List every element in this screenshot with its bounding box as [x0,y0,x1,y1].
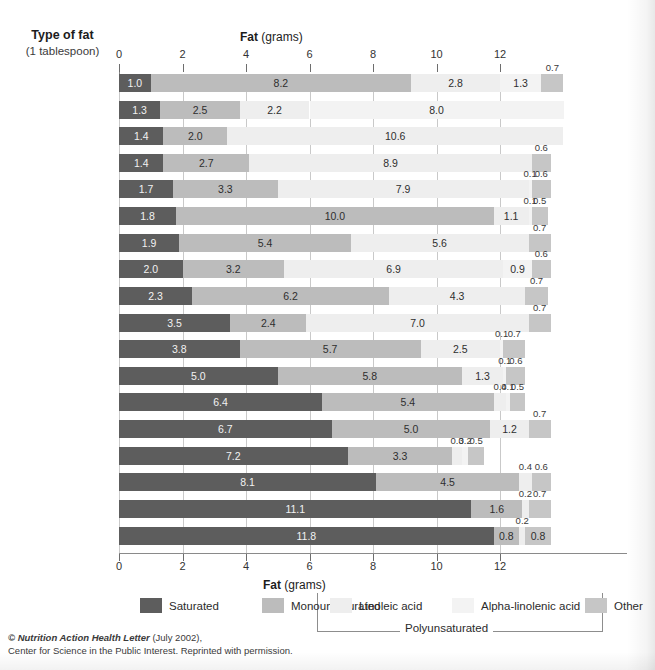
x-tick-label-top: 4 [243,48,249,60]
bar-value-label: 10.0 [176,207,494,225]
bar-segment-other [529,420,551,438]
bar-value-label: 2.4 [230,314,306,332]
bar-value-label: 3.2 [183,260,285,278]
x-axis-title-top-bold: Fat [240,30,258,44]
bar-segment-other [468,447,484,465]
bar-row: Olive oil1.810.01.10.10.5 [0,207,655,225]
bar-value-label: 4.3 [389,287,526,305]
bar-value-label: 1.2 [490,420,528,438]
bar-value-label: 0.6 [530,247,553,260]
bar-segment-other [541,74,563,92]
bar-segment-other [510,393,526,411]
y-axis-title-main: Type of fat [10,28,115,44]
bar-value-label: 6.7 [119,420,332,438]
bar-value-label: 0.8 [525,527,550,545]
bar-value-label: 2.0 [163,127,227,145]
x-axis-title-bottom: Fat (grams) [263,578,326,592]
x-axis-title-top: Fat (grams) [240,30,303,44]
credit-publication: © Nutrition Action Health Letter [8,632,150,643]
fat-composition-chart: Type of fat (1 tablespoon) Fat (grams) F… [0,0,655,670]
bar-row: Corn oil1.73.37.90.10.6 [0,180,655,198]
bar-value-label: 1.0 [119,74,151,92]
bar-value-label: 6.2 [192,287,389,305]
bar-row: Peanut oil2.36.24.30.7 [0,287,655,305]
x-tick-label-top: 8 [370,48,376,60]
bar-row: Palm kernel oil11.11.60.20.7 [0,500,655,518]
bar-row: Palm oil6.75.01.20.7 [0,420,655,438]
bar-value-label: 2.5 [421,340,500,358]
x-tick-label-top: 12 [494,48,506,60]
bar-value-label: 2.2 [240,101,310,119]
bar-value-label: 0.6 [530,141,553,154]
bar-row: Butter7.23.30.30.20.5 [0,447,655,465]
x-tick-label-bottom: 2 [179,560,185,572]
bar-row: Flaxseed oil1.32.52.28.0 [0,101,655,119]
bar-value-label: 0.8 [494,527,519,545]
x-tick-label-bottom: 10 [430,560,442,572]
bar-row: Safflower oil1.42.010.6 [0,127,655,145]
bar-value-label: 8.0 [310,101,564,119]
x-tick-label-bottom: 8 [370,560,376,572]
bar-value-label: 5.4 [179,234,350,252]
legend-label: Linoleic acid [359,600,422,612]
paper-bottom-shadow [0,652,655,670]
credit-line-1: © Nutrition Action Health Letter (July 2… [8,632,293,645]
bar-value-label: 0.7 [528,407,551,420]
legend-swatch-icon [585,598,607,613]
bar-row: Lard (pork fat)5.05.81.30.10.6 [0,367,655,385]
x-tick-top [373,64,374,72]
x-tick-top [246,64,247,72]
bar-value-label: 1.1 [494,207,529,225]
x-axis-title-bottom-bold: Fat [263,578,281,592]
bar-row: Canola oil1.08.22.81.30.7 [0,74,655,92]
bar-row: Soybean oil2.03.26.90.90.6 [0,260,655,278]
bar-value-label: 0.7 [541,61,564,74]
bar-value-label: 5.0 [119,367,278,385]
legend-label: Alpha-linolenic acid [481,600,580,612]
y-axis-title: Type of fat (1 tablespoon) [10,28,115,58]
bar-row: Cocoa butter8.14.50.40.6 [0,473,655,491]
legend-item-linoleic-acid[interactable]: Linoleic acid [330,598,422,613]
x-tick-top [119,64,120,72]
x-axis-title-top-rest: (grams) [258,30,303,44]
bar-value-label: 0.6 [505,354,528,367]
bar-value-label: 5.7 [240,340,421,358]
bar-value-label: 2.7 [163,154,249,172]
bar-value-label: 1.4 [119,127,163,145]
bar-value-label: 1.9 [119,234,179,252]
legend-swatch-icon [140,598,162,613]
bar-value-label: 1.3 [119,101,160,119]
bar-value-label: 0.2 [511,514,534,527]
x-tick-label-bottom: 4 [243,560,249,572]
bar-value-label: 7.9 [278,180,529,198]
bar-value-label: 5.8 [278,367,462,385]
bar-row: Coconut oil11.80.80.20.8 [0,527,655,545]
bar-value-label: 10.6 [227,127,564,145]
bar-value-label: 7.2 [119,447,348,465]
bar-value-label: 1.7 [119,180,173,198]
x-tick-label-bottom: 12 [494,560,506,572]
bar-value-label: 0.7 [528,301,551,314]
bar-segment-linoleic [494,393,507,411]
bar-value-label: 11.1 [119,500,471,518]
x-tick-top [310,64,311,72]
bar-value-label: 5.6 [351,234,529,252]
bar-value-label: 0.6 [530,460,553,473]
bar-value-label: 1.4 [119,154,163,172]
bar-segment-other [529,314,551,332]
bar-value-label: 1.8 [119,207,176,225]
legend-item-alpha-linolenic-acid[interactable]: Alpha-linolenic acid [452,598,580,613]
bar-value-label: 0.7 [525,274,548,287]
bar-row: Sunflower oil1.42.78.90.6 [0,154,655,172]
bar-value-label: 8.2 [151,74,411,92]
bar-value-label: 2.8 [411,74,500,92]
bar-value-label: 0.7 [528,487,551,500]
x-tick-label-top: 6 [306,48,312,60]
bar-value-label: 6.4 [119,393,322,411]
legend-item-saturated[interactable]: Saturated [140,598,219,613]
bar-value-label: 8.1 [119,473,376,491]
bar-value-label: 0.5 [465,434,488,447]
legend-label: Saturated [169,600,219,612]
bar-value-label: 0.5 [528,194,551,207]
bar-value-label: 0.7 [528,221,551,234]
